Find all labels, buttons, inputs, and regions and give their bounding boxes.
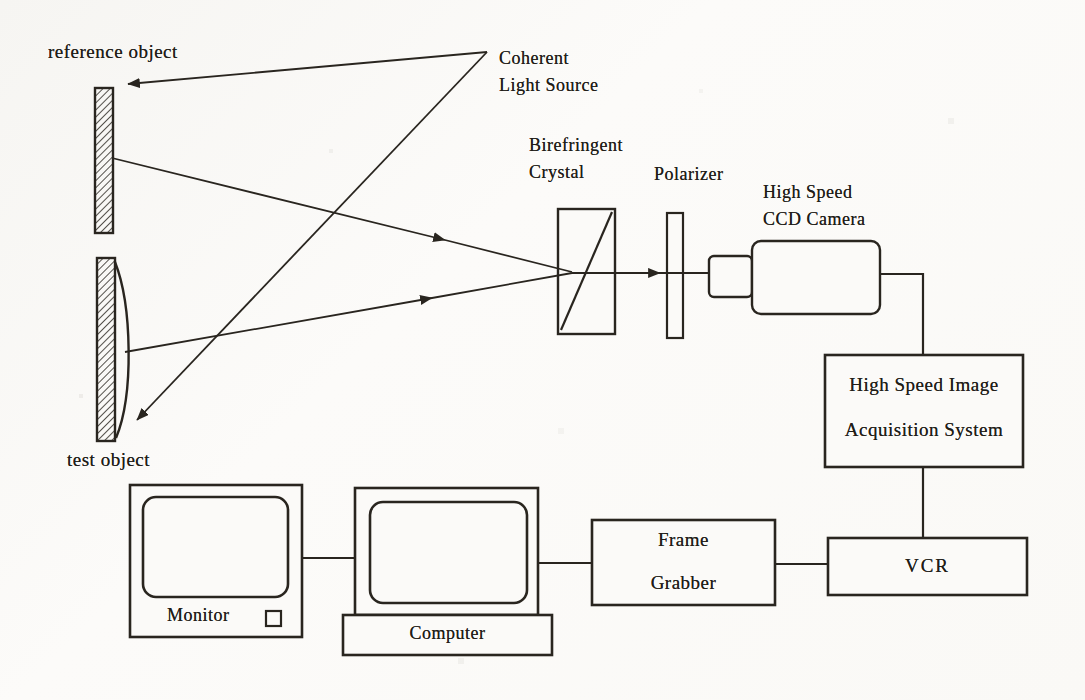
light-source-label-line1: Coherent (499, 49, 569, 69)
reference-object-label: reference object (48, 42, 178, 63)
frame-grabber-label-line2: Grabber (592, 573, 775, 594)
diagram-linework (0, 0, 1085, 700)
polarizer-label: Polarizer (654, 165, 723, 185)
monitor-power-button (266, 611, 281, 626)
monitor-label: Monitor (167, 606, 230, 626)
ccd-camera-shape (709, 241, 880, 314)
polarizer-shape (667, 213, 683, 338)
camera-label-line1: High Speed (763, 183, 853, 203)
light-rays (112, 52, 710, 420)
test-object-label: test object (67, 450, 150, 471)
light-source-label-line2: Light Source (499, 76, 598, 96)
crystal-label-line1: Birefringent (529, 136, 623, 156)
acquisition-label-line2: Acquisition System (825, 420, 1023, 441)
computer-label: Computer (343, 624, 552, 644)
vcr-label: VCR (828, 556, 1027, 577)
camera-to-acquisition-line (880, 274, 923, 355)
reference-object-plate (95, 88, 113, 233)
scanned-diagram-page: reference object test object Coherent Li… (0, 0, 1085, 700)
acquisition-label-line1: High Speed Image (825, 375, 1023, 396)
frame-grabber-label-line1: Frame (592, 530, 775, 551)
acquisition-system-box (825, 355, 1023, 467)
test-object-lens (97, 258, 129, 441)
crystal-label-line2: Crystal (529, 163, 585, 183)
camera-label-line2: CCD Camera (763, 210, 865, 230)
